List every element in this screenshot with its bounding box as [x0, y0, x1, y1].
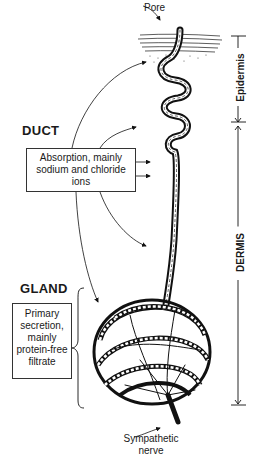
epidermis-stipple	[149, 54, 206, 62]
secretory-coil	[94, 300, 210, 404]
nerve-label: Sympathetic nerve	[116, 433, 186, 457]
brace-icon	[72, 288, 84, 408]
gland-function-box: Primary secretion, mainly protein-free f…	[12, 303, 72, 379]
epidermis-label: Epidermis	[235, 50, 246, 106]
arrow-icon	[100, 127, 136, 148]
dermis-label: DERMIS	[235, 227, 246, 279]
arrow-icon	[100, 192, 146, 246]
pore-label: Pore	[144, 2, 165, 14]
duct-heading: DUCT	[22, 123, 59, 138]
arrow-icon	[76, 192, 98, 302]
arrow-icon	[72, 62, 146, 148]
duct-function-box: Absorption, mainly sodium and chloride i…	[26, 148, 136, 192]
gland-heading: GLAND	[20, 281, 68, 296]
duct-arrows	[72, 6, 160, 437]
sweat-duct	[161, 30, 188, 305]
sweat-gland-drawing	[0, 0, 262, 460]
